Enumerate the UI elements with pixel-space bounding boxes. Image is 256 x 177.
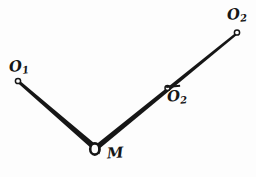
point-marker-o1 (15, 78, 20, 83)
point-label-o2-bar-subscript: 2 (180, 94, 188, 106)
point-label-o2-base: O (226, 5, 241, 24)
segment-o1-m (17, 80, 94, 150)
point-label-m: M (106, 145, 123, 161)
point-label-o2-subscript: 2 (240, 12, 248, 24)
diagram-canvas: O1 O2 O2 M (0, 0, 256, 177)
point-label-o2: O2 (226, 5, 247, 23)
point-label-o1-subscript: 1 (22, 64, 30, 76)
point-label-o1-base: O (8, 57, 23, 76)
point-marker-o2top (234, 30, 239, 35)
point-label-o2-bar-base: O (166, 87, 180, 106)
point-marker-m (90, 143, 99, 154)
point-label-m-base: M (106, 143, 124, 162)
point-label-o1: O1 (8, 57, 29, 75)
diagram-drawing (0, 0, 256, 177)
point-label-o2-bar: O2 (166, 87, 187, 105)
